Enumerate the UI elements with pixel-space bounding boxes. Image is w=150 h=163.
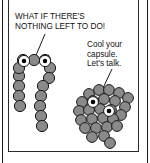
- pupil-right: [43, 59, 47, 63]
- bead: [37, 80, 48, 91]
- arch-creature: [13, 54, 55, 131]
- bead: [14, 100, 25, 111]
- pupil-right: [107, 109, 112, 114]
- bead: [99, 94, 110, 105]
- bead: [36, 120, 47, 131]
- bead: [80, 123, 91, 134]
- cluster-creature: [74, 85, 134, 149]
- comic-panel-border: WHAT IF THERE'S NOTHING LEFT TO DO! Cool…: [8, 0, 139, 152]
- outer-frame-rule-right: [147, 0, 148, 163]
- bead: [112, 121, 123, 132]
- bead: [35, 110, 46, 121]
- comic-panel-image: WHAT IF THERE'S NOTHING LEFT TO DO! Cool…: [0, 0, 150, 163]
- bead-center-head: [28, 54, 39, 65]
- bead: [87, 132, 98, 143]
- outer-frame-rule-left: [2, 0, 3, 163]
- pupil-left: [91, 100, 96, 105]
- comic-artwork: [9, 0, 139, 152]
- bead: [34, 100, 45, 111]
- bead: [105, 138, 116, 149]
- pupil-left: [22, 59, 26, 63]
- bead: [13, 90, 24, 101]
- bead: [35, 90, 46, 101]
